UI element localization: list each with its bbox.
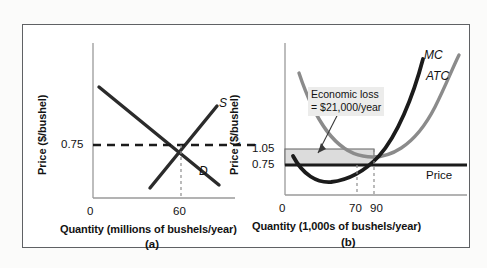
panel-b-y-tick-105: 1.05 [252,143,274,155]
panel-b-y-axis-title: Price ($/bushel) [229,95,240,175]
atc-curve-label: ATC [426,70,449,82]
panel-b-x-axis-title: Quantity (1,000s of bushels/year) [252,221,421,232]
economic-loss-annotation-line2: = $21,000/year [311,101,381,114]
figure-root: Price ($/bushel) 0.75 0 60 S D Quantity … [0,0,487,268]
panel-b-plot [23,25,471,249]
panel-b-caption: (b) [341,237,356,249]
panel-b-x-tick-90: 90 [370,203,383,215]
mc-curve-label: MC [424,49,443,61]
figure-frame: Price ($/bushel) 0.75 0 60 S D Quantity … [22,24,470,248]
panel-b-x-tick-70: 70 [349,203,362,215]
economic-loss-annotation: Economic loss = $21,000/year [308,87,384,116]
panel-b-origin-label: 0 [279,203,285,215]
panel-b-y-tick-075: 0.75 [252,159,274,171]
price-line-label: Price [426,170,452,182]
economic-loss-annotation-line1: Economic loss [311,88,381,101]
